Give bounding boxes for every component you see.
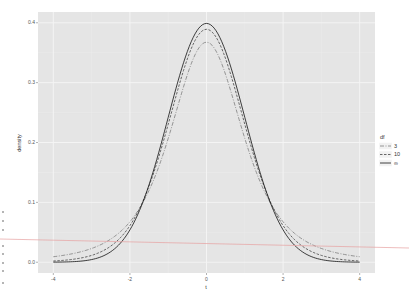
x-tick-label: 4 xyxy=(358,276,361,282)
y-tick-label: 0.4 xyxy=(28,19,35,25)
legend: df 310∞ xyxy=(379,134,400,167)
x-axis: -4-2024 xyxy=(51,273,361,282)
y-tick-label: 0.3 xyxy=(28,79,35,85)
x-tick-label: 2 xyxy=(282,276,285,282)
y-tick-label: 0.0 xyxy=(28,259,35,265)
x-tick-label: -4 xyxy=(51,276,56,282)
x-tick-label: -2 xyxy=(128,276,133,282)
legend-title: df xyxy=(380,134,385,140)
y-tick-label: 0.1 xyxy=(28,199,35,205)
density-chart: 0.00.10.20.30.4 -4-2024 t density df 310… xyxy=(0,0,409,300)
legend-label: 3 xyxy=(394,143,397,149)
x-tick-label: 0 xyxy=(205,276,208,282)
legend-label: 10 xyxy=(394,151,400,157)
y-axis: 0.00.10.20.30.4 xyxy=(28,19,38,264)
left-edge-marks xyxy=(2,211,3,283)
x-axis-title: t xyxy=(205,284,207,290)
legend-label: ∞ xyxy=(394,160,398,166)
y-axis-title: density xyxy=(16,134,22,152)
y-tick-label: 0.2 xyxy=(28,139,35,145)
